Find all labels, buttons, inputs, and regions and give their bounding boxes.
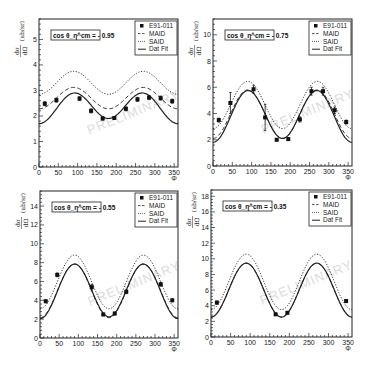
legend-label: E91-011	[323, 22, 347, 29]
chart-panel-2: PRELIMINARY050100150200250300350Φ0246810…	[187, 19, 356, 181]
data-point-marker	[43, 102, 47, 106]
data-point-marker	[252, 87, 256, 91]
x-tick-label: 100	[72, 340, 84, 347]
y-tick-label: 12	[201, 240, 209, 247]
y-label-denominator: dΩ	[195, 47, 202, 56]
y-tick-label: 10	[30, 240, 38, 247]
data-point-marker	[321, 89, 325, 93]
data-point-marker	[344, 120, 348, 124]
y-tick-label: 4	[33, 61, 37, 68]
y-axis: 024681012141618	[201, 190, 215, 341]
legend-label: Dat Fit	[323, 45, 342, 52]
data-point-marker	[147, 96, 151, 100]
cos-theta-annotation: cos θ_η^cm = - 0.55	[52, 202, 116, 212]
legend-label: SAID	[149, 210, 164, 217]
legend-label: E91-011	[149, 22, 173, 29]
cos-theta-annotation: cos θ_η^cm = - 0.35	[223, 201, 287, 211]
figure: PRELIMINARY050100150200250300350Φ012345d…	[0, 0, 372, 367]
data-point-marker	[113, 312, 117, 316]
data-point-marker	[54, 98, 58, 102]
curves	[213, 81, 352, 142]
x-axis: 050100150200250300350Φ	[37, 163, 180, 182]
y-tick-label: 6	[205, 287, 209, 294]
x-axis: 050100150200250300350Φ	[211, 162, 354, 181]
y-tick-label: 1	[33, 138, 37, 145]
data-point-marker	[274, 312, 278, 316]
legend-label: MAID	[149, 202, 166, 209]
y-tick-label: 2	[33, 112, 37, 119]
data-point-marker	[217, 118, 221, 122]
y-tick-label: 18	[201, 193, 209, 200]
data-point-marker	[333, 108, 337, 112]
x-tick-label: 0	[211, 168, 215, 175]
annotation-text: cos θ_η^cm = - 0.95	[53, 32, 115, 40]
y-label-denominator: dΩ	[22, 219, 29, 228]
legend-label: MAID	[323, 201, 340, 208]
data-point-marker	[55, 273, 59, 277]
y-tick-label: 8	[205, 271, 209, 278]
chart-panel-1: PRELIMINARY050100150200250300350Φ012345d…	[13, 19, 182, 182]
y-tick-label: 0	[34, 335, 38, 342]
y-axis-label: dσdΩ(ub/sr)	[14, 193, 29, 229]
data-point-marker	[135, 97, 139, 101]
y-axis-label: dσdΩ(ub/sr)	[13, 21, 28, 57]
x-axis-label: Φ	[171, 175, 177, 182]
x-tick-label: 100	[244, 339, 256, 346]
x-tick-label: 300	[323, 339, 335, 346]
legend: E91-011MAIDSAIDDat Fit	[309, 21, 351, 55]
data-point-marker	[275, 138, 279, 142]
y-tick-label: 16	[201, 208, 209, 215]
legend: E91-011MAIDSAIDDat Fit	[135, 193, 177, 227]
cos-theta-annotation: cos θ_η^cm = - 0.75	[225, 30, 289, 40]
y-label-units: (ub/sr)	[19, 193, 26, 213]
square-marker-icon	[140, 24, 144, 28]
legend-label: SAID	[323, 209, 338, 216]
data-point-marker	[124, 107, 128, 111]
data-point-marker	[90, 285, 94, 289]
y-label-units: (ub/sr)	[190, 192, 197, 212]
y-label-numerator: dσ	[185, 218, 192, 226]
data-points	[215, 299, 348, 316]
y-tick-label: 2	[207, 136, 211, 143]
x-tick-label: 50	[55, 340, 63, 347]
x-axis: 050100150200250300350Φ	[38, 334, 180, 353]
y-tick-label: 6	[34, 278, 38, 285]
y-tick-label: 0	[207, 163, 211, 170]
annotation-text: cos θ_η^cm = - 0.55	[54, 204, 116, 212]
data-point-marker	[159, 96, 163, 100]
legend-label: SAID	[149, 38, 164, 45]
x-tick-label: 300	[149, 340, 161, 347]
x-tick-label: 0	[38, 340, 42, 347]
y-tick-label: 8	[207, 58, 211, 65]
data-point-marker	[101, 117, 105, 121]
x-tick-label: 50	[228, 168, 236, 175]
y-label-denominator: dΩ	[193, 218, 200, 227]
y-tick-label: 4	[205, 302, 209, 309]
annotation-text: cos θ_η^cm = - 0.35	[225, 203, 287, 211]
y-axis: 0246810	[203, 19, 217, 170]
x-axis-label: Φ	[171, 346, 177, 353]
y-axis: 012345	[33, 19, 43, 171]
x-tick-label: 50	[227, 339, 235, 346]
y-tick-label: 6	[207, 84, 211, 91]
legend-label: MAID	[323, 30, 340, 37]
data-point-marker	[78, 97, 82, 101]
x-tick-label: 150	[91, 169, 103, 176]
x-axis: 050100150200250300350Φ	[209, 333, 354, 352]
curve-said	[39, 71, 178, 94]
cos-theta-annotation: cos θ_η^cm = - 0.95	[51, 30, 115, 40]
y-tick-label: 8	[34, 259, 38, 266]
x-tick-label: 100	[72, 169, 84, 176]
x-tick-label: 150	[264, 339, 276, 346]
data-point-marker	[298, 117, 302, 121]
legend-label: Dat Fit	[149, 217, 168, 224]
chart-panel-4: PRELIMINARY050100150200250300350Φ0246810…	[185, 190, 355, 352]
x-tick-label: 200	[111, 340, 123, 347]
x-tick-label: 150	[92, 340, 104, 347]
data-point-marker	[263, 115, 267, 119]
x-tick-label: 250	[130, 340, 142, 347]
x-axis-label: Φ	[345, 174, 351, 181]
x-tick-label: 200	[283, 339, 295, 346]
y-tick-label: 0	[205, 334, 209, 341]
data-point-marker	[112, 116, 116, 120]
